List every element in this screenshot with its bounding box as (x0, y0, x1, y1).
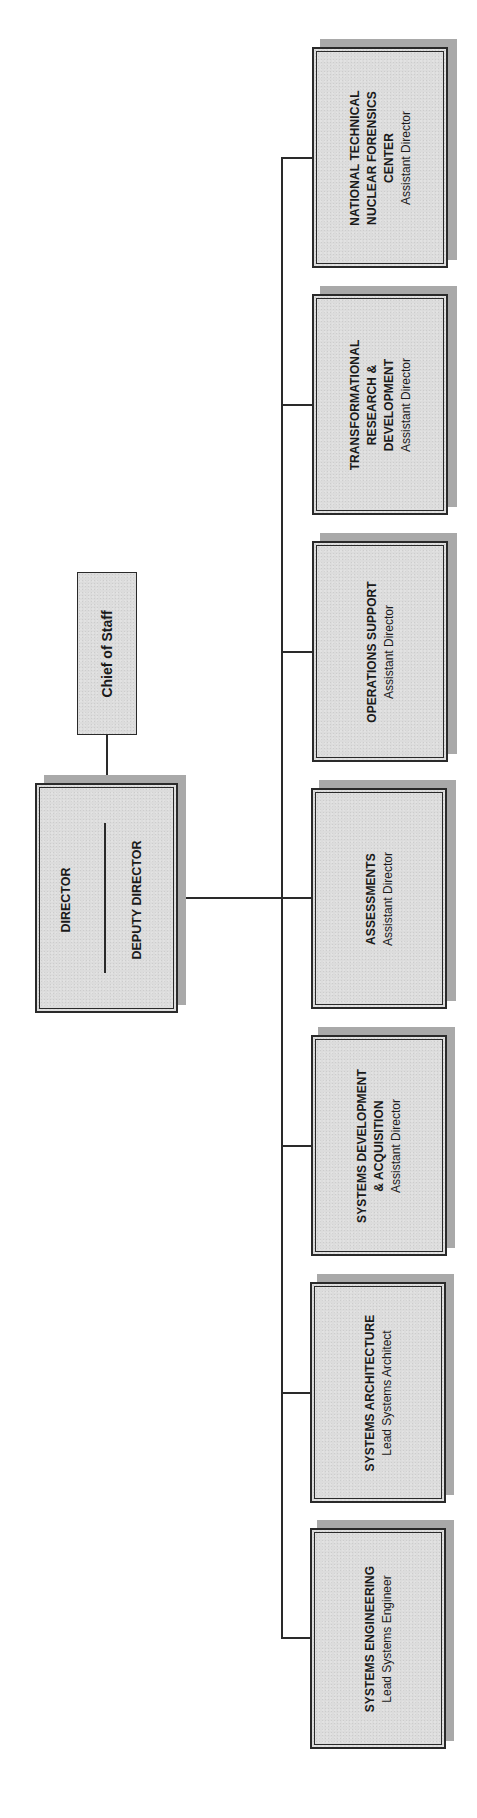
division-head: Assistant Director (380, 851, 396, 945)
connector-sa (281, 1392, 310, 1394)
division-box-ntnfc: NATIONAL TECHNICAL NUCLEAR FORENSICS CEN… (312, 47, 448, 268)
division-head: Assistant Director (388, 1098, 404, 1192)
director-box: DIRECTOR DEPUTY DIRECTOR (35, 783, 178, 1013)
chief-of-staff-box: Chief of Staff (77, 572, 137, 735)
division-box-systems-engineering: SYSTEMS ENGINEERING Lead Systems Enginee… (310, 1528, 446, 1749)
division-box-trd: TRANSFORMATIONAL RESEARCH & DEVELOPMENT … (312, 294, 448, 515)
division-head: Assistant Director (381, 604, 397, 698)
division-name: OPERATIONS SUPPORT (364, 581, 381, 723)
director-divider (104, 823, 106, 973)
connector-ntnfc (281, 157, 312, 159)
division-name: TRANSFORMATIONAL RESEARCH & DEVELOPMENT (347, 339, 398, 470)
connector-ops (281, 651, 312, 653)
division-box-operations-support: OPERATIONS SUPPORT Assistant Director (312, 541, 448, 762)
director-connector (178, 897, 312, 899)
deputy-director-label: DEPUTY DIRECTOR (130, 840, 144, 959)
division-name: SYSTEMS ARCHITECTURE (362, 1314, 379, 1471)
division-box-systems-architecture: SYSTEMS ARCHITECTURE Lead Systems Archit… (310, 1282, 446, 1503)
connector-se (281, 1637, 310, 1639)
division-name: NATIONAL TECHNICAL NUCLEAR FORENSICS CEN… (347, 90, 398, 225)
connector-trd (281, 404, 312, 406)
org-chart: Chief of Staff DIRECTOR DEPUTY DIRECTOR … (0, 0, 477, 1818)
division-head: Assistant Director (398, 110, 414, 204)
division-name: SYSTEMS ENGINEERING (362, 1565, 379, 1712)
division-head: Lead Systems Engineer (379, 1575, 395, 1702)
division-head: Lead Systems Architect (379, 1330, 395, 1455)
division-box-systems-development: SYSTEMS DEVELOPMENT & ACQUISITION Assist… (311, 1035, 447, 1256)
director-label: DIRECTOR (59, 867, 73, 932)
division-name: SYSTEMS DEVELOPMENT & ACQUISITION (354, 1069, 388, 1223)
chief-of-staff-label: Chief of Staff (99, 610, 115, 697)
division-name: ASSESSMENTS (363, 853, 380, 945)
division-box-assessments: ASSESSMENTS Assistant Director (311, 788, 447, 1009)
connector-sda (281, 1145, 311, 1147)
division-head: Assistant Director (398, 357, 414, 451)
